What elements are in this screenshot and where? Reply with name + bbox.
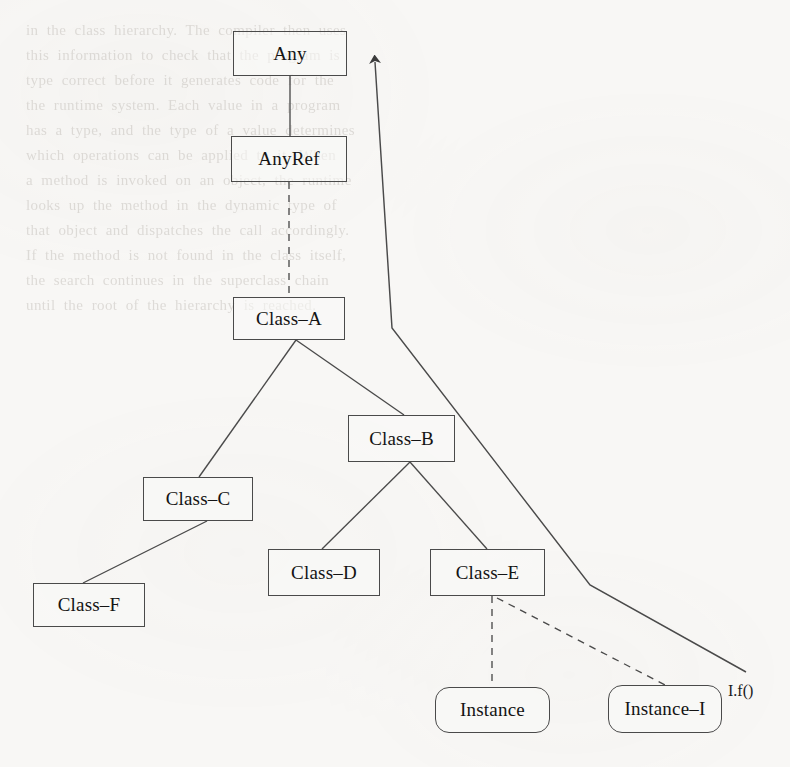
edge-class-b-class-e	[410, 462, 487, 549]
node-anyref[interactable]: AnyRef	[231, 136, 347, 182]
node-label-class-a: Class–A	[256, 308, 322, 330]
node-label-class-f: Class–F	[58, 594, 121, 616]
edge-class-e-instance-i	[497, 598, 665, 685]
node-class-f[interactable]: Class–F	[33, 583, 145, 627]
class-hierarchy-svg	[0, 0, 790, 767]
node-label-any: Any	[273, 43, 306, 65]
node-label-class-c: Class–C	[166, 488, 231, 510]
node-class-a[interactable]: Class–A	[233, 297, 345, 340]
edge-class-c-class-f	[83, 521, 207, 583]
edge-class-a-class-c	[199, 340, 296, 477]
node-instance[interactable]: Instance	[435, 687, 550, 733]
node-label-anyref: AnyRef	[258, 148, 319, 170]
call-label: I.f()	[728, 682, 753, 700]
diagram-page: in the class hierarchy. The compiler the…	[0, 0, 790, 767]
edge-class-b-class-d	[322, 462, 410, 549]
node-label-instance: Instance	[460, 699, 525, 721]
node-class-b[interactable]: Class–B	[348, 415, 455, 462]
node-class-c[interactable]: Class–C	[143, 477, 253, 521]
node-any[interactable]: Any	[233, 31, 347, 76]
node-label-class-b: Class–B	[369, 428, 434, 450]
node-label-class-d: Class–D	[291, 562, 357, 584]
edge-class-a-class-b	[296, 340, 404, 415]
node-class-d[interactable]: Class–D	[268, 549, 380, 596]
node-instance-i[interactable]: Instance–I	[608, 685, 722, 733]
node-label-instance-i: Instance–I	[624, 698, 705, 720]
node-class-e[interactable]: Class–E	[430, 549, 545, 596]
node-label-class-e: Class–E	[456, 562, 520, 584]
